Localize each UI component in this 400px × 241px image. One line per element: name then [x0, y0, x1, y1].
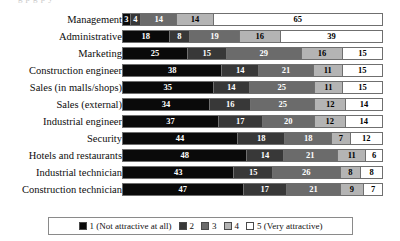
legend-item[interactable]: 1 (Not attractive at all)	[79, 220, 172, 232]
category-label: Construction technician	[0, 182, 122, 197]
legend-label: 5 (Very attractive)	[257, 220, 322, 232]
bar-segment-2: 8	[170, 31, 191, 42]
legend-label: 3	[212, 220, 217, 232]
chart-row: Sales (external)3416251214	[0, 97, 400, 114]
legend-swatch-icon	[201, 222, 209, 230]
category-label: Marketing	[0, 46, 122, 61]
category-label: Industrial engineer	[0, 114, 122, 129]
stacked-bar: 43152688	[122, 166, 383, 179]
chart-row: Industrial engineer3717201214	[0, 114, 400, 131]
bar-segment-1: 44	[123, 133, 238, 144]
bar-segment-4: 14	[177, 14, 213, 25]
chart-plot-area: Management34141465Administrative18819163…	[0, 12, 400, 210]
bar-segment-3: 19	[190, 31, 239, 42]
bar-segment-4: 16	[302, 48, 343, 59]
chart-row: Construction engineer3814211115	[0, 63, 400, 80]
bar-segment-5: 12	[351, 133, 382, 144]
bar-segment-4: 7	[332, 133, 350, 144]
stacked-bar: 188191639	[122, 30, 383, 43]
legend-item[interactable]: 4	[224, 220, 240, 232]
bar-segment-1: 43	[123, 167, 234, 178]
bar-segment-3: 25	[251, 99, 315, 110]
bar-segment-1: 48	[123, 150, 247, 161]
bar-segment-2: 14	[222, 65, 259, 76]
stacked-bar: 2515291615	[122, 47, 383, 60]
bar-segment-4: 8	[341, 167, 362, 178]
bar-segment-5: 15	[343, 65, 382, 76]
chart-row: Hotels and restaurants481421116	[0, 148, 400, 165]
chart-row: Security441818712	[0, 131, 400, 148]
bar-segment-4: 11	[315, 82, 343, 93]
chart-legend: 1 (Not attractive at all)2345 (Very attr…	[48, 217, 353, 235]
legend-swatch-icon	[179, 222, 187, 230]
stacked-bar: 34141465	[122, 13, 383, 26]
bar-segment-1: 34	[123, 99, 210, 110]
bar-segment-3: 29	[227, 48, 302, 59]
legend-swatch-icon	[79, 222, 87, 230]
legend-label: 1 (Not attractive at all)	[90, 220, 172, 232]
bar-segment-3: 21	[287, 184, 341, 195]
bar-segment-4: 11	[314, 65, 343, 76]
bar-segment-2: 17	[244, 184, 288, 195]
legend-item[interactable]: 2	[179, 220, 195, 232]
bar-segment-2: 15	[234, 167, 273, 178]
caption-remnant-text: g p g p y	[0, 0, 400, 4]
stacked-bar: 3814211115	[122, 64, 383, 77]
legend-item[interactable]: 5 (Very attractive)	[246, 220, 322, 232]
category-label: Sales (in malls/shops)	[0, 80, 122, 95]
legend-label: 4	[235, 220, 240, 232]
bar-segment-4: 16	[240, 31, 281, 42]
bar-segment-5: 65	[214, 14, 382, 25]
bar-segment-5: 7	[364, 184, 382, 195]
category-label: Construction engineer	[0, 63, 122, 78]
stacked-bar: 3514251115	[122, 81, 383, 94]
bar-segment-3: 25	[250, 82, 315, 93]
bar-segment-3: 20	[263, 116, 315, 127]
bar-segment-2: 14	[247, 150, 283, 161]
bar-segment-2: 17	[219, 116, 263, 127]
legend-swatch-icon	[224, 222, 232, 230]
bar-segment-4: 9	[341, 184, 364, 195]
legend-swatch-icon	[246, 222, 254, 230]
bar-segment-3: 26	[273, 167, 340, 178]
legend-item[interactable]: 3	[201, 220, 217, 232]
bar-segment-1: 18	[123, 31, 170, 42]
stacked-bar: 441818712	[122, 132, 383, 145]
bar-segment-1: 37	[123, 116, 219, 127]
bar-segment-3: 14	[141, 14, 177, 25]
chart-row: Construction technician47172197	[0, 182, 400, 199]
bar-segment-3: 21	[259, 65, 314, 76]
chart-row: Administrative188191639	[0, 29, 400, 46]
stacked-bar: 481421116	[122, 149, 383, 162]
bar-segment-2: 14	[214, 82, 250, 93]
category-label: Administrative	[0, 29, 122, 44]
bar-segment-5: 14	[346, 116, 382, 127]
bar-segment-3: 18	[285, 133, 332, 144]
category-label: Sales (external)	[0, 97, 122, 112]
bar-segment-2: 15	[188, 48, 227, 59]
chart-row: Management34141465	[0, 12, 400, 29]
bar-segment-5: 14	[346, 99, 382, 110]
bar-segment-4: 12	[315, 99, 346, 110]
category-label: Hotels and restaurants	[0, 148, 122, 163]
stacked-bar-chart: g p g p y Management34141465Administrati…	[0, 0, 400, 241]
chart-row: Sales (in malls/shops)3514251115	[0, 80, 400, 97]
stacked-bar: 3416251214	[122, 98, 383, 111]
category-label: Management	[0, 12, 122, 27]
bar-segment-2: 16	[210, 99, 251, 110]
bar-segment-5: 15	[343, 48, 382, 59]
bar-segment-5: 8	[361, 167, 382, 178]
legend-label: 2	[190, 220, 195, 232]
stacked-bar: 47172197	[122, 183, 383, 196]
bar-segment-1: 47	[123, 184, 244, 195]
bar-segment-5: 15	[343, 82, 382, 93]
bar-segment-1: 38	[123, 65, 222, 76]
category-label: Security	[0, 131, 122, 146]
bar-segment-4: 11	[338, 150, 366, 161]
bar-segment-5: 6	[366, 150, 382, 161]
chart-row: Industrial technician43152688	[0, 165, 400, 182]
bar-segment-2: 18	[238, 133, 285, 144]
bar-segment-3: 21	[284, 150, 338, 161]
bar-segment-1: 25	[123, 48, 188, 59]
chart-row: Marketing2515291615	[0, 46, 400, 63]
